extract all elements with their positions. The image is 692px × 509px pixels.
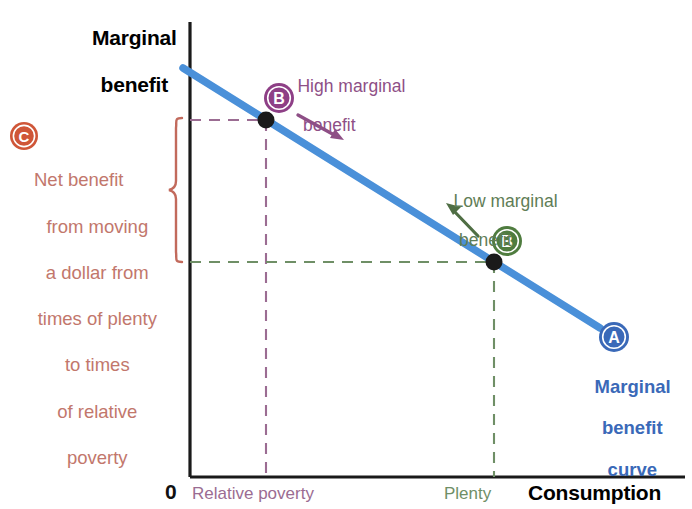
annotation-low-marginal-benefit: Low marginal benefit (434, 172, 558, 290)
annotation-marginal-benefit-curve: Marginal benefit curve (574, 356, 670, 501)
annotation-net-line5: to times (65, 354, 130, 375)
annotation-high-line1: High marginal (297, 76, 405, 96)
y-axis-title-line1: Marginal (92, 26, 177, 49)
annotation-net-line2: from moving (46, 216, 148, 237)
badge-a-curve-letter: A (604, 330, 624, 346)
annotation-high-line2: benefit (278, 116, 405, 136)
annotation-net-line3: a dollar from (46, 262, 149, 283)
annotation-curve-line1: Marginal (595, 376, 671, 397)
x-tick-label-plenty: Plenty (444, 484, 491, 503)
annotation-net-benefit: Net benefit from moving a dollar from ti… (8, 122, 166, 492)
annotation-curve-line2: benefit (602, 417, 663, 438)
annotation-net-line7: poverty (67, 447, 128, 468)
annotation-high-marginal-benefit: High marginal benefit (278, 57, 405, 175)
annotation-net-line1: Net benefit (8, 168, 166, 191)
origin-label: 0 (165, 480, 177, 504)
y-axis-title-line2: benefit (101, 73, 168, 96)
data-point-high-marginal-benefit (258, 112, 275, 129)
annotation-low-line1: Low marginal (453, 191, 557, 211)
annotation-net-line4: times of plenty (38, 308, 157, 329)
marginal-benefit-diagram: B B A C Marginal benefit Consumption 0 R… (0, 0, 692, 509)
annotation-low-line2: benefit (434, 231, 558, 251)
y-axis-title: Marginal benefit (60, 2, 186, 120)
annotation-curve-line3: curve (608, 459, 657, 480)
net-benefit-brace (169, 118, 182, 262)
x-tick-label-relative-poverty: Relative poverty (192, 484, 314, 503)
annotation-net-line6: of relative (57, 401, 137, 422)
